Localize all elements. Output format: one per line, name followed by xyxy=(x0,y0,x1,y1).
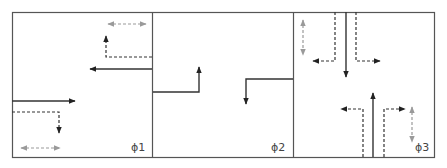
panel-phase-3 xyxy=(303,12,412,157)
right-turn-dashed-arrow-icon xyxy=(384,109,405,157)
left-turn-dashed-arrow-icon xyxy=(106,36,152,57)
right-turn-dashed-arrow-icon xyxy=(12,112,59,133)
phase-label-2: ϕ2 xyxy=(271,142,285,154)
protected-left-turn-southbound-arrow-icon xyxy=(246,79,293,104)
phase-label-1: ϕ1 xyxy=(131,142,145,154)
phase-label-3: ϕ3 xyxy=(415,142,429,154)
protected-left-turn-northbound-arrow-icon xyxy=(153,67,199,92)
panel-phase-1 xyxy=(12,24,152,148)
left-turn-dashed-arrow-icon xyxy=(341,109,363,157)
right-turn-dashed-arrow-icon xyxy=(313,12,335,61)
panel-phase-2 xyxy=(153,67,293,104)
left-turn-dashed-arrow-icon xyxy=(356,12,380,61)
phase-diagram xyxy=(0,0,447,168)
outer-border xyxy=(13,13,435,158)
diagram-frame xyxy=(13,13,435,158)
